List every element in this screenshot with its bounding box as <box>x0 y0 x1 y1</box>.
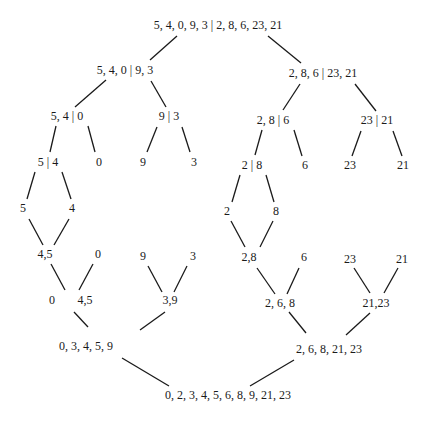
tree-node-n7: 5 | 4 <box>38 156 58 168</box>
edge-n5-n12 <box>294 130 302 156</box>
edge-n1-n3 <box>75 80 106 107</box>
edge-n7-n16 <box>62 172 71 199</box>
edge-n22-n29 <box>174 266 187 292</box>
tree-node-n28: 4,5 <box>78 294 93 306</box>
tree-node-n31: 21,23 <box>363 297 390 309</box>
tree-node-n19: 4,5 <box>38 248 53 260</box>
edge-n32-n34 <box>122 358 169 386</box>
tree-node-n20: 0 <box>95 248 101 260</box>
tree-node-n29: 3,9 <box>163 294 178 306</box>
tree-node-n0: 5, 4, 0, 9, 3 | 2, 8, 6, 23, 21 <box>154 19 282 31</box>
tree-node-n22: 3 <box>190 250 196 262</box>
edge-n18-n23 <box>260 221 273 247</box>
tree-node-n24: 6 <box>301 251 307 263</box>
edge-n11-n17 <box>232 175 240 202</box>
edge-n6-n14 <box>393 131 402 156</box>
edge-n6-n13 <box>352 131 361 156</box>
merge-sort-diagram: 5, 4, 0, 9, 3 | 2, 8, 6, 23, 215, 4, 0 |… <box>0 0 429 423</box>
tree-node-n25: 23 <box>344 253 356 265</box>
edge-n2-n5 <box>283 84 300 110</box>
tree-node-n32: 0, 3, 4, 5, 9 <box>59 340 113 352</box>
edge-n0-n1 <box>150 36 177 60</box>
edge-n30-n33 <box>289 312 306 333</box>
tree-node-n33: 2, 6, 8, 21, 23 <box>296 343 362 355</box>
tree-node-n21: 9 <box>140 250 146 262</box>
edge-n33-n34 <box>250 360 294 386</box>
tree-node-n34: 0, 2, 3, 4, 5, 6, 8, 9, 21, 23 <box>165 389 291 401</box>
tree-node-n23: 2,8 <box>242 251 257 263</box>
tree-node-n1: 5, 4, 0 | 9, 3 <box>97 64 153 76</box>
tree-node-n26: 21 <box>396 253 408 265</box>
edge-n26-n31 <box>384 268 398 293</box>
edge-n24-n30 <box>287 268 299 294</box>
tree-node-n27: 0 <box>49 294 55 306</box>
tree-node-n15: 5 <box>20 202 26 214</box>
edge-n20-n28 <box>79 264 93 290</box>
edge-n4-n10 <box>182 127 190 152</box>
tree-node-n2: 2, 8, 6 | 23, 21 <box>289 67 357 79</box>
tree-node-n5: 2, 8 | 6 <box>257 114 289 126</box>
tree-node-n18: 8 <box>273 205 279 217</box>
tree-node-n9: 9 <box>140 156 146 168</box>
tree-node-n17: 2 <box>224 205 230 217</box>
edge-n7-n15 <box>27 172 35 199</box>
edge-n29-n32 <box>140 312 165 330</box>
tree-node-n12: 6 <box>302 159 308 171</box>
edge-n19-n28 <box>51 264 65 290</box>
edge-n4-n9 <box>147 127 157 152</box>
tree-edges <box>0 0 429 423</box>
edge-n25-n31 <box>354 268 370 293</box>
tree-node-n10: 3 <box>191 156 197 168</box>
tree-node-n4: 9 | 3 <box>159 110 179 122</box>
edge-n1-n4 <box>151 81 166 107</box>
edge-n17-n23 <box>231 221 245 247</box>
edge-n5-n11 <box>255 130 262 155</box>
edge-n28-n32 <box>74 312 88 327</box>
tree-node-n30: 2, 6, 8 <box>265 297 295 309</box>
tree-node-n8: 0 <box>96 156 102 168</box>
edge-n3-n7 <box>50 126 56 152</box>
tree-node-n14: 21 <box>397 159 409 171</box>
tree-node-n6: 23 | 21 <box>361 114 393 126</box>
tree-node-n13: 23 <box>344 159 356 171</box>
edge-n16-n19 <box>54 219 69 245</box>
edge-n3-n8 <box>88 126 95 152</box>
edge-n0-n2 <box>268 36 301 63</box>
edge-n23-n30 <box>257 268 275 294</box>
edge-n11-n18 <box>266 175 274 202</box>
tree-node-n16: 4 <box>69 202 75 214</box>
edge-n31-n33 <box>346 313 370 335</box>
tree-node-n11: 2 | 8 <box>242 159 262 171</box>
edge-n21-n29 <box>148 266 162 292</box>
edge-n2-n6 <box>355 84 376 111</box>
tree-node-n3: 5, 4 | 0 <box>51 110 83 122</box>
edge-n15-n19 <box>29 219 43 245</box>
